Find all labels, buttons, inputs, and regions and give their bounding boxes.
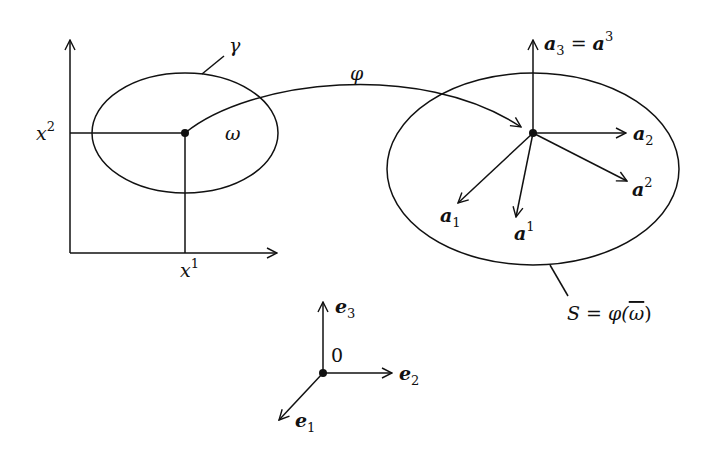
diagram-canvas: x2 x1 ω γ φ a3 = a3 a2 a2 a1 a1 S = φ(ω)… — [0, 0, 720, 456]
e3-label: e3 — [335, 295, 355, 321]
a-sup1-label: a1 — [514, 219, 535, 244]
S-leader-line — [550, 265, 568, 296]
x1-label: x1 — [180, 256, 199, 281]
a1-label: a1 — [440, 204, 461, 230]
gamma-leader-line — [202, 56, 224, 74]
x2-label: x2 — [36, 119, 55, 144]
phi-label: φ — [350, 62, 364, 84]
origin-label: 0 — [331, 344, 343, 366]
a3-equals-a-sup3-label: a3 = a3 — [544, 29, 613, 58]
omega-label: ω — [225, 122, 241, 144]
a-sup2-vector-arrow — [533, 133, 627, 181]
gamma-label: γ — [229, 34, 241, 56]
S-equals-phi-omegabar-label: S = φ(ω) — [567, 302, 652, 324]
e1-label: e1 — [295, 409, 315, 435]
a1-vector-arrow — [458, 133, 533, 203]
domain-axes — [70, 40, 277, 253]
e2-label: e2 — [399, 362, 419, 388]
a2-label: a2 — [633, 122, 654, 148]
a-sup2-label: a2 — [632, 175, 653, 200]
